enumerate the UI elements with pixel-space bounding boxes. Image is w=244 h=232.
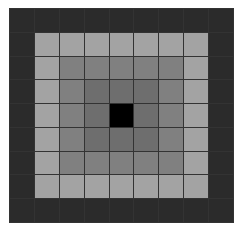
figure-root bbox=[0, 0, 244, 232]
heatmap-cell bbox=[110, 9, 134, 32]
heatmap-cell bbox=[60, 128, 84, 151]
heatmap-cell bbox=[10, 175, 34, 198]
heatmap-cell bbox=[10, 104, 34, 127]
heatmap-cell bbox=[134, 175, 158, 198]
heatmap-cell bbox=[159, 80, 183, 103]
heatmap-cell bbox=[209, 104, 233, 127]
heatmap-cell bbox=[159, 199, 183, 222]
heatmap-cell bbox=[209, 175, 233, 198]
heatmap-cell bbox=[60, 9, 84, 32]
heatmap-cell bbox=[85, 80, 109, 103]
heatmap-cell bbox=[60, 175, 84, 198]
heatmap-cell bbox=[85, 104, 109, 127]
heatmap-cell bbox=[184, 152, 208, 175]
heatmap-cell bbox=[35, 104, 59, 127]
heatmap-cell bbox=[60, 80, 84, 103]
heatmap-cell bbox=[209, 33, 233, 56]
heatmap-cell bbox=[10, 152, 34, 175]
heatmap-cell bbox=[35, 57, 59, 80]
heatmap-cell bbox=[159, 9, 183, 32]
heatmap-cell bbox=[184, 33, 208, 56]
heatmap-cell bbox=[85, 199, 109, 222]
heatmap-cell bbox=[35, 80, 59, 103]
heatmap-cell bbox=[60, 57, 84, 80]
heatmap-cell bbox=[134, 128, 158, 151]
heatmap-cell bbox=[10, 128, 34, 151]
heatmap-cell bbox=[134, 80, 158, 103]
heatmap-cell bbox=[10, 33, 34, 56]
heatmap-cell bbox=[85, 175, 109, 198]
heatmap-cell bbox=[10, 80, 34, 103]
heatmap-cell bbox=[159, 152, 183, 175]
heatmap-cell bbox=[110, 80, 134, 103]
heatmap-cell bbox=[184, 128, 208, 151]
heatmap-cell bbox=[134, 104, 158, 127]
heatmap-cell bbox=[110, 152, 134, 175]
heatmap-cell bbox=[134, 199, 158, 222]
heatmap-cell bbox=[209, 128, 233, 151]
heatmap-cell bbox=[60, 199, 84, 222]
heatmap-cell bbox=[110, 128, 134, 151]
heatmap-cell bbox=[110, 33, 134, 56]
heatmap-cell bbox=[85, 9, 109, 32]
heatmap-cell bbox=[209, 57, 233, 80]
heatmap-cell bbox=[134, 57, 158, 80]
heatmap-cell bbox=[60, 152, 84, 175]
heatmap-cell bbox=[85, 128, 109, 151]
heatmap-cell bbox=[85, 57, 109, 80]
heatmap-cell bbox=[60, 104, 84, 127]
heatmap-cell bbox=[35, 199, 59, 222]
heatmap-cell bbox=[35, 175, 59, 198]
heatmap-cell bbox=[209, 9, 233, 32]
heatmap-cell bbox=[159, 57, 183, 80]
heatmap-cell bbox=[134, 33, 158, 56]
heatmap-cell bbox=[110, 104, 134, 127]
heatmap-cell bbox=[35, 33, 59, 56]
heatmap-cell bbox=[184, 57, 208, 80]
heatmap-cell bbox=[10, 57, 34, 80]
heatmap-cell bbox=[110, 57, 134, 80]
heatmap-cell bbox=[159, 128, 183, 151]
heatmap-cell bbox=[209, 80, 233, 103]
heatmap-cell bbox=[184, 104, 208, 127]
heatmap-cell bbox=[85, 33, 109, 56]
heatmap-cell bbox=[10, 199, 34, 222]
heatmap-cell bbox=[184, 199, 208, 222]
heatmap-grid bbox=[9, 8, 234, 223]
heatmap-cell bbox=[110, 199, 134, 222]
heatmap-cell bbox=[35, 128, 59, 151]
heatmap-cell bbox=[35, 9, 59, 32]
heatmap-cell bbox=[35, 152, 59, 175]
heatmap-cell bbox=[209, 199, 233, 222]
heatmap-cell bbox=[184, 9, 208, 32]
heatmap-cell bbox=[10, 9, 34, 32]
heatmap-cell bbox=[134, 152, 158, 175]
heatmap-cell bbox=[184, 175, 208, 198]
heatmap-cell bbox=[134, 9, 158, 32]
heatmap-cell bbox=[159, 104, 183, 127]
heatmap-cell bbox=[184, 80, 208, 103]
heatmap-cell bbox=[209, 152, 233, 175]
heatmap-cell bbox=[110, 175, 134, 198]
heatmap-cell bbox=[159, 175, 183, 198]
heatmap-cell bbox=[60, 33, 84, 56]
heatmap-cell bbox=[159, 33, 183, 56]
heatmap-cell bbox=[85, 152, 109, 175]
